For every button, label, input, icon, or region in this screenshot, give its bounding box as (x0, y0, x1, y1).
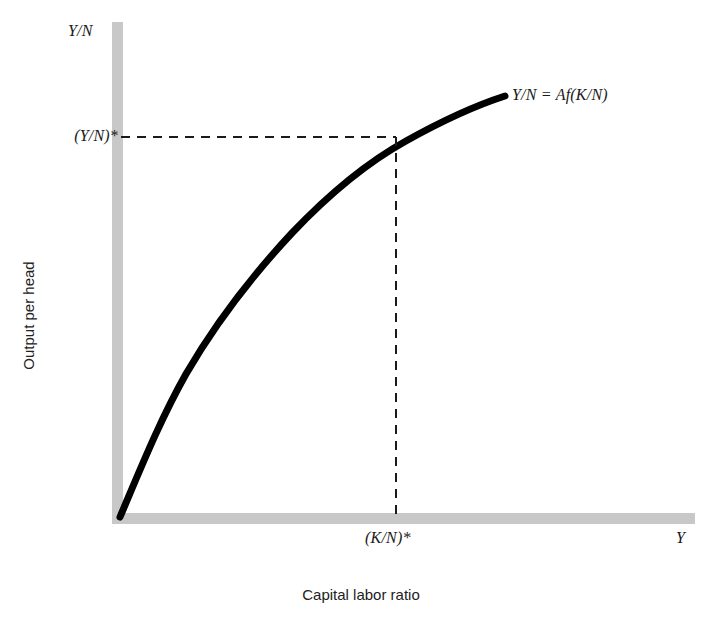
x-axis-bar (112, 513, 695, 524)
y-axis-bar (112, 22, 123, 524)
production-function-curve (120, 96, 505, 517)
x-axis-title: Capital labor ratio (0, 586, 722, 603)
chart-canvas (0, 0, 722, 623)
curve-equation-label: Y/N = Af(K/N) (512, 86, 608, 104)
x-axis-tick-label-equilibrium: (K/N)* (365, 529, 411, 547)
y-axis-title: Output per head (20, 226, 37, 406)
y-axis-tick-label-equilibrium: (Y/N)* (74, 127, 118, 145)
production-function-chart: Y/N (Y/N)* (K/N)* Y Y/N = Af(K/N) Capita… (0, 0, 722, 623)
y-axis-top-label: Y/N (68, 22, 93, 40)
x-axis-end-label: Y (676, 529, 685, 547)
